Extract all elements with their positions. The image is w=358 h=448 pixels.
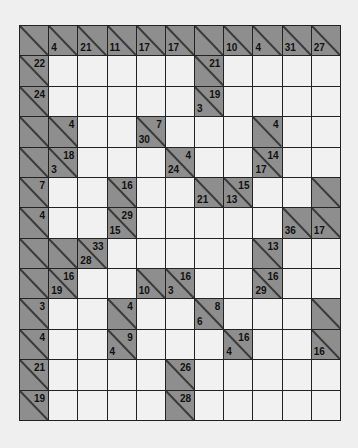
entry-cell[interactable] xyxy=(137,148,165,177)
entry-cell[interactable] xyxy=(49,178,77,207)
entry-cell[interactable] xyxy=(78,391,106,420)
entry-cell[interactable] xyxy=(78,299,106,328)
entry-cell[interactable] xyxy=(49,299,77,328)
entry-cell[interactable] xyxy=(49,360,77,389)
entry-cell[interactable] xyxy=(49,56,77,85)
entry-cell[interactable] xyxy=(137,391,165,420)
entry-cell[interactable] xyxy=(108,269,136,298)
entry-cell[interactable] xyxy=(195,330,223,359)
entry-cell[interactable] xyxy=(224,391,252,420)
entry-cell[interactable] xyxy=(312,87,340,116)
entry-cell[interactable] xyxy=(283,391,311,420)
across-clue: 18 xyxy=(63,151,74,161)
entry-cell[interactable] xyxy=(166,208,194,237)
entry-cell[interactable] xyxy=(312,360,340,389)
entry-cell[interactable] xyxy=(137,56,165,85)
entry-cell[interactable] xyxy=(253,178,281,207)
entry-cell[interactable] xyxy=(283,360,311,389)
entry-cell[interactable] xyxy=(312,56,340,85)
clue-cell: 17 xyxy=(137,26,165,55)
entry-cell[interactable] xyxy=(224,208,252,237)
entry-cell[interactable] xyxy=(283,178,311,207)
entry-cell[interactable] xyxy=(137,330,165,359)
entry-cell[interactable] xyxy=(283,148,311,177)
entry-cell[interactable] xyxy=(137,299,165,328)
down-clue: 29 xyxy=(255,286,266,296)
entry-cell[interactable] xyxy=(108,148,136,177)
entry-cell[interactable] xyxy=(166,178,194,207)
entry-cell[interactable] xyxy=(49,208,77,237)
entry-cell[interactable] xyxy=(166,299,194,328)
entry-cell[interactable] xyxy=(166,239,194,268)
entry-cell[interactable] xyxy=(224,269,252,298)
entry-cell[interactable] xyxy=(166,56,194,85)
entry-cell[interactable] xyxy=(166,117,194,146)
entry-cell[interactable] xyxy=(108,56,136,85)
entry-cell[interactable] xyxy=(253,87,281,116)
entry-cell[interactable] xyxy=(108,391,136,420)
clue-cell: 22 xyxy=(20,56,48,85)
entry-cell[interactable] xyxy=(49,87,77,116)
entry-cell[interactable] xyxy=(312,391,340,420)
entry-cell[interactable] xyxy=(78,178,106,207)
entry-cell[interactable] xyxy=(78,117,106,146)
entry-cell[interactable] xyxy=(283,299,311,328)
entry-cell[interactable] xyxy=(137,208,165,237)
down-clue: 11 xyxy=(110,43,121,53)
entry-cell[interactable] xyxy=(166,87,194,116)
entry-cell[interactable] xyxy=(49,391,77,420)
entry-cell[interactable] xyxy=(283,87,311,116)
clue-cell: 11 xyxy=(108,26,136,55)
entry-cell[interactable] xyxy=(108,117,136,146)
entry-cell[interactable] xyxy=(224,239,252,268)
entry-cell[interactable] xyxy=(253,56,281,85)
entry-cell[interactable] xyxy=(195,117,223,146)
clue-cell xyxy=(20,269,48,298)
entry-cell[interactable] xyxy=(78,148,106,177)
entry-cell[interactable] xyxy=(253,330,281,359)
entry-cell[interactable] xyxy=(78,87,106,116)
entry-cell[interactable] xyxy=(312,269,340,298)
entry-cell[interactable] xyxy=(224,117,252,146)
entry-cell[interactable] xyxy=(253,360,281,389)
entry-cell[interactable] xyxy=(195,269,223,298)
entry-cell[interactable] xyxy=(78,208,106,237)
entry-cell[interactable] xyxy=(224,87,252,116)
entry-cell[interactable] xyxy=(108,239,136,268)
entry-cell[interactable] xyxy=(224,360,252,389)
entry-cell[interactable] xyxy=(224,56,252,85)
down-clue: 4 xyxy=(51,43,57,53)
entry-cell[interactable] xyxy=(253,208,281,237)
clue-cell: 4 xyxy=(20,208,48,237)
entry-cell[interactable] xyxy=(283,56,311,85)
entry-cell[interactable] xyxy=(137,239,165,268)
entry-cell[interactable] xyxy=(195,148,223,177)
entry-cell[interactable] xyxy=(49,330,77,359)
entry-cell[interactable] xyxy=(253,299,281,328)
entry-cell[interactable] xyxy=(312,148,340,177)
entry-cell[interactable] xyxy=(108,360,136,389)
entry-cell[interactable] xyxy=(137,87,165,116)
clue-cell: 17 xyxy=(312,208,340,237)
entry-cell[interactable] xyxy=(195,391,223,420)
entry-cell[interactable] xyxy=(195,360,223,389)
entry-cell[interactable] xyxy=(137,360,165,389)
entry-cell[interactable] xyxy=(137,178,165,207)
entry-cell[interactable] xyxy=(78,330,106,359)
entry-cell[interactable] xyxy=(166,330,194,359)
entry-cell[interactable] xyxy=(78,269,106,298)
entry-cell[interactable] xyxy=(283,239,311,268)
entry-cell[interactable] xyxy=(312,239,340,268)
entry-cell[interactable] xyxy=(253,391,281,420)
entry-cell[interactable] xyxy=(78,56,106,85)
entry-cell[interactable] xyxy=(283,330,311,359)
entry-cell[interactable] xyxy=(283,117,311,146)
entry-cell[interactable] xyxy=(312,117,340,146)
entry-cell[interactable] xyxy=(195,208,223,237)
entry-cell[interactable] xyxy=(283,269,311,298)
entry-cell[interactable] xyxy=(224,299,252,328)
entry-cell[interactable] xyxy=(195,239,223,268)
entry-cell[interactable] xyxy=(224,148,252,177)
entry-cell[interactable] xyxy=(108,87,136,116)
entry-cell[interactable] xyxy=(78,360,106,389)
